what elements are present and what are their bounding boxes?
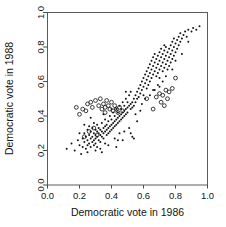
data-point-filled [91, 136, 93, 138]
data-point-filled [88, 134, 90, 136]
data-point-filled [83, 141, 85, 143]
data-point-filled [103, 137, 105, 139]
x-tick-label: 0.4 [105, 190, 118, 201]
data-point-filled [133, 137, 135, 139]
data-point-filled [144, 82, 146, 84]
data-point-filled [96, 124, 98, 126]
data-point-filled [162, 81, 164, 83]
data-point-filled [91, 141, 93, 143]
data-point-filled [168, 65, 170, 67]
data-point-filled [159, 68, 161, 70]
data-point-filled [165, 55, 167, 57]
data-point-filled [154, 70, 156, 72]
data-point-filled [163, 58, 165, 60]
data-point-filled [131, 101, 133, 103]
data-point-filled [125, 113, 127, 115]
data-point-filled [159, 51, 161, 53]
data-point-filled [74, 150, 76, 152]
data-point-filled [128, 94, 130, 96]
data-point-filled [130, 103, 132, 105]
data-point-filled [99, 129, 101, 131]
data-point-filled [187, 29, 189, 31]
data-point-filled [163, 67, 165, 69]
y-tick-label: 0.4 [35, 109, 46, 122]
data-point-filled [136, 120, 138, 122]
data-point-filled [151, 77, 153, 79]
data-point-filled [82, 146, 84, 148]
data-point-filled [117, 112, 119, 114]
data-point-filled [123, 131, 125, 133]
data-point-filled [83, 132, 85, 134]
data-point-filled [159, 60, 161, 62]
data-point-filled [107, 120, 109, 122]
data-point-filled [71, 143, 73, 145]
data-point-filled [175, 60, 177, 62]
data-point-filled [119, 120, 121, 122]
data-point-filled [178, 36, 180, 38]
data-point-filled [112, 122, 114, 124]
data-point-filled [154, 62, 156, 64]
data-point-filled [138, 96, 140, 98]
data-point-filled [79, 144, 81, 146]
data-point-filled [176, 48, 178, 50]
data-point-filled [115, 146, 117, 148]
scatter-plot-figure: 0.00.20.40.60.81.0 0.00.20.40.60.81.0 De… [0, 0, 226, 227]
data-point-filled [135, 101, 137, 103]
data-point-filled [191, 30, 193, 32]
data-point-filled [93, 144, 95, 146]
data-point-filled [98, 127, 100, 129]
data-point-filled [122, 117, 124, 119]
data-point-filled [93, 122, 95, 124]
data-point-filled [127, 106, 129, 108]
data-point-filled [128, 127, 130, 129]
data-point-filled [111, 124, 113, 126]
data-point-filled [165, 46, 167, 48]
data-point-filled [138, 87, 140, 89]
data-point-filled [123, 105, 125, 107]
data-point-filled [173, 55, 175, 57]
data-point-filled [163, 44, 165, 46]
data-point-filled [163, 49, 165, 51]
data-point-filled [133, 98, 135, 100]
data-point-filled [101, 151, 103, 153]
x-axis-title: Democratic vote in 1986 [71, 206, 184, 218]
data-point-filled [171, 58, 173, 60]
data-point-filled [107, 132, 109, 134]
data-point-filled [122, 139, 124, 141]
data-point-filled [149, 81, 151, 83]
data-point-filled [77, 139, 79, 141]
data-point-filled [99, 148, 101, 150]
data-point-filled [99, 141, 101, 143]
data-point-filled [117, 139, 119, 141]
data-point-filled [93, 132, 95, 134]
data-point-filled [146, 87, 148, 89]
y-tick-label: 1.0 [35, 6, 46, 19]
x-tick-label: 0.6 [137, 190, 150, 201]
data-point-filled [141, 103, 143, 105]
data-point-filled [98, 139, 100, 141]
data-point-filled [112, 127, 114, 129]
data-point-filled [139, 110, 141, 112]
data-point-filled [120, 113, 122, 115]
data-point-filled [99, 134, 101, 136]
data-point-filled [157, 55, 159, 57]
data-point-filled [87, 139, 89, 141]
y-tick-label: 0.0 [35, 178, 46, 191]
data-point-filled [117, 122, 119, 124]
data-point-filled [152, 74, 154, 76]
data-point-filled [146, 70, 148, 72]
data-point-filled [168, 56, 170, 58]
data-point-filled [106, 134, 108, 136]
data-point-filled [114, 125, 116, 127]
data-point-filled [90, 117, 92, 119]
data-point-filled [83, 124, 85, 126]
data-point-filled [111, 118, 113, 120]
data-point-filled [152, 56, 154, 58]
data-point-filled [147, 75, 149, 77]
data-point-filled [155, 67, 157, 69]
data-point-filled [149, 63, 151, 65]
data-point-filled [104, 118, 106, 120]
data-point-filled [106, 129, 108, 131]
data-point-filled [87, 151, 89, 153]
x-tick-label: 0.8 [169, 190, 182, 201]
